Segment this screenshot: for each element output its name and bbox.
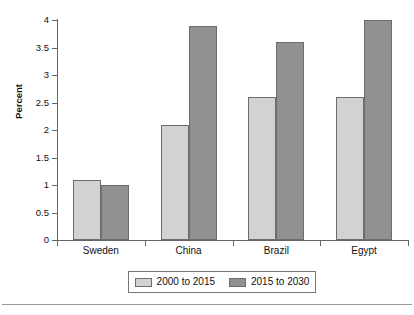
legend-swatch-icon (229, 278, 246, 287)
bar-group (336, 20, 392, 240)
x-axis-category-label: Sweden (57, 245, 145, 257)
y-axis-tick-label: 2 (9, 125, 49, 135)
y-axis-tick-label: 1.5 (9, 153, 49, 163)
bar (101, 185, 129, 240)
y-axis-tick-label: 3.5 (9, 43, 49, 53)
legend-label: 2015 to 2030 (251, 277, 309, 287)
legend-swatch-icon (135, 278, 152, 287)
bar (73, 180, 101, 241)
y-axis-tick-label: 0 (9, 235, 49, 245)
y-axis-tick-label: 2.5 (9, 98, 49, 108)
x-axis-category-label: Brazil (233, 245, 321, 257)
bar (276, 42, 304, 240)
bar (189, 26, 217, 241)
x-axis-separator-tick (408, 241, 409, 246)
bar (248, 97, 276, 240)
y-axis-tick-label: 1 (9, 180, 49, 190)
bottom-divider (2, 304, 412, 305)
bar-group (248, 20, 304, 240)
legend-label: 2000 to 2015 (157, 277, 215, 287)
bar (336, 97, 364, 240)
legend-entry[interactable]: 2000 to 2015 (135, 277, 215, 287)
legend-entry[interactable]: 2015 to 2030 (229, 277, 309, 287)
bar-group (161, 20, 217, 240)
chart-legend: 2000 to 20152015 to 2030 (128, 271, 316, 293)
plot-area (57, 20, 408, 240)
y-axis-tick-label: 3 (9, 70, 49, 80)
y-axis-tick-label: 4 (9, 15, 49, 25)
bar-chart-figure: Percent 00.511.522.533.54 SwedenChinaBra… (0, 0, 414, 315)
x-axis-category-label: China (145, 245, 233, 257)
bar-group (73, 20, 129, 240)
y-axis-tick-label: 0.5 (9, 208, 49, 218)
x-axis-category-label: Egypt (320, 245, 408, 257)
bar (161, 125, 189, 241)
bar (364, 20, 392, 240)
